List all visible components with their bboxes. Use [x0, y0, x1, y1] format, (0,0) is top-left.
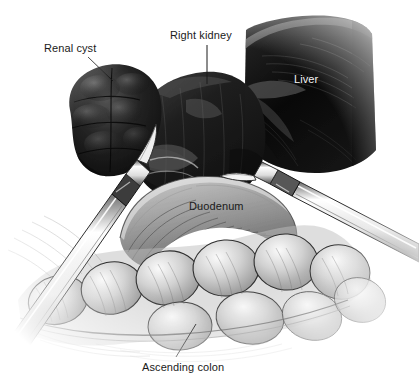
artwork-layers: [0, 0, 419, 385]
label-duodenum: Duodenum: [189, 200, 244, 212]
label-renal-cyst: Renal cyst: [44, 42, 96, 54]
label-ascending-colon: Ascending colon: [142, 361, 224, 373]
medical-illustration-figure: Renal cyst Right kidney Liver Duodenum A…: [0, 0, 419, 385]
label-liver: Liver: [294, 73, 318, 85]
anatomy-artwork: [0, 0, 419, 385]
edge-vignette: [0, 0, 419, 385]
label-right-kidney: Right kidney: [170, 29, 232, 41]
